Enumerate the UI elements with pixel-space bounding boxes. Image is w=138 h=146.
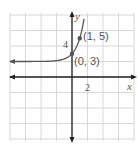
point-label-0-3: (0, 3) — [74, 55, 100, 67]
y-tick-label: 4 — [63, 39, 68, 50]
y-axis-label: y — [74, 10, 80, 22]
x-axis-label: x — [126, 80, 132, 92]
point-label-1-5: (1, 5) — [83, 30, 109, 42]
x-tick-label: 2 — [85, 82, 90, 93]
graph: 2 4 x y (1, 5) (0, 3) — [0, 0, 138, 146]
